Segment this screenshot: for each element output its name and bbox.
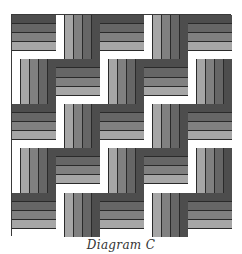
fabric-strip bbox=[74, 104, 83, 148]
fabric-strip bbox=[188, 113, 232, 122]
fabric-strip bbox=[188, 24, 232, 33]
fabric-strip bbox=[144, 104, 153, 148]
fabric-strip bbox=[30, 59, 39, 103]
fabric-strip bbox=[188, 202, 232, 211]
fabric-strip bbox=[65, 104, 74, 148]
fabric-strip bbox=[162, 15, 171, 59]
fabric-strip bbox=[224, 59, 232, 103]
fabric-strip bbox=[83, 104, 92, 148]
fabric-strip bbox=[100, 24, 144, 33]
fabric-strip bbox=[144, 59, 188, 68]
fabric-strip bbox=[162, 193, 171, 237]
fabric-strip bbox=[12, 24, 56, 33]
fabric-strip bbox=[162, 104, 171, 148]
fabric-strip bbox=[56, 175, 100, 184]
fabric-strip bbox=[188, 33, 232, 42]
fabric-strip bbox=[12, 51, 56, 59]
fabric-strip bbox=[144, 87, 188, 96]
quilt-diagram bbox=[11, 14, 231, 236]
fabric-strip bbox=[100, 15, 144, 24]
fabric-strip bbox=[12, 33, 56, 42]
fabric-strip bbox=[100, 42, 144, 51]
fabric-strip bbox=[12, 193, 56, 202]
fabric-strip bbox=[21, 148, 30, 192]
fabric-strip bbox=[39, 59, 48, 103]
fabric-strip bbox=[188, 104, 232, 113]
quilt-block-vertical bbox=[100, 59, 144, 103]
fabric-strip bbox=[56, 68, 100, 77]
quilt-block-vertical bbox=[144, 193, 188, 237]
quilt-block-vertical bbox=[144, 15, 188, 59]
fabric-strip bbox=[180, 193, 188, 237]
fabric-strip bbox=[56, 184, 100, 192]
fabric-strip bbox=[100, 211, 144, 220]
fabric-strip bbox=[100, 122, 144, 131]
fabric-strip bbox=[12, 140, 56, 148]
fabric-strip bbox=[30, 148, 39, 192]
fabric-strip bbox=[12, 122, 56, 131]
fabric-strip bbox=[100, 51, 144, 59]
fabric-strip bbox=[144, 175, 188, 184]
fabric-strip bbox=[56, 148, 100, 157]
fabric-strip bbox=[144, 96, 188, 104]
fabric-strip bbox=[65, 193, 74, 237]
quilt-block-vertical bbox=[100, 148, 144, 192]
fabric-strip bbox=[109, 148, 118, 192]
fabric-strip bbox=[197, 59, 206, 103]
fabric-strip bbox=[144, 78, 188, 87]
fabric-strip bbox=[100, 33, 144, 42]
fabric-strip bbox=[153, 104, 162, 148]
quilt-block-horizontal bbox=[144, 59, 188, 103]
fabric-strip bbox=[12, 202, 56, 211]
fabric-strip bbox=[56, 96, 100, 104]
fabric-strip bbox=[12, 211, 56, 220]
fabric-strip bbox=[144, 15, 153, 59]
fabric-strip bbox=[188, 220, 232, 229]
quilt-block-vertical bbox=[188, 148, 232, 192]
fabric-strip bbox=[56, 193, 65, 237]
fabric-strip bbox=[56, 166, 100, 175]
fabric-strip bbox=[188, 51, 232, 59]
fabric-strip bbox=[197, 148, 206, 192]
fabric-strip bbox=[224, 148, 232, 192]
fabric-strip bbox=[188, 42, 232, 51]
quilt-block-horizontal bbox=[188, 15, 232, 59]
fabric-strip bbox=[92, 193, 100, 237]
quilt-block-vertical bbox=[56, 193, 100, 237]
fabric-strip bbox=[153, 15, 162, 59]
fabric-strip bbox=[215, 148, 224, 192]
fabric-strip bbox=[188, 148, 197, 192]
fabric-strip bbox=[188, 193, 232, 202]
quilt-block-vertical bbox=[56, 15, 100, 59]
quilt-block-vertical bbox=[144, 104, 188, 148]
fabric-strip bbox=[83, 15, 92, 59]
fabric-strip bbox=[12, 113, 56, 122]
fabric-strip bbox=[100, 202, 144, 211]
fabric-strip bbox=[100, 113, 144, 122]
fabric-strip bbox=[56, 104, 65, 148]
fabric-strip bbox=[188, 229, 232, 237]
fabric-strip bbox=[74, 193, 83, 237]
fabric-strip bbox=[100, 220, 144, 229]
fabric-strip bbox=[100, 229, 144, 237]
quilt-block-horizontal bbox=[100, 15, 144, 59]
fabric-strip bbox=[12, 15, 56, 24]
quilt-block-horizontal bbox=[12, 15, 56, 59]
fabric-strip bbox=[12, 220, 56, 229]
fabric-strip bbox=[100, 140, 144, 148]
fabric-strip bbox=[118, 148, 127, 192]
fabric-strip bbox=[180, 15, 188, 59]
fabric-strip bbox=[171, 193, 180, 237]
fabric-strip bbox=[144, 68, 188, 77]
fabric-strip bbox=[83, 193, 92, 237]
quilt-block-vertical bbox=[56, 104, 100, 148]
quilt-block-horizontal bbox=[144, 148, 188, 192]
fabric-strip bbox=[21, 59, 30, 103]
fabric-strip bbox=[127, 59, 136, 103]
fabric-strip bbox=[74, 15, 83, 59]
fabric-strip bbox=[188, 15, 232, 24]
fabric-strip bbox=[100, 59, 109, 103]
quilt-block-vertical bbox=[12, 148, 56, 192]
fabric-strip bbox=[12, 104, 56, 113]
fabric-strip bbox=[100, 148, 109, 192]
